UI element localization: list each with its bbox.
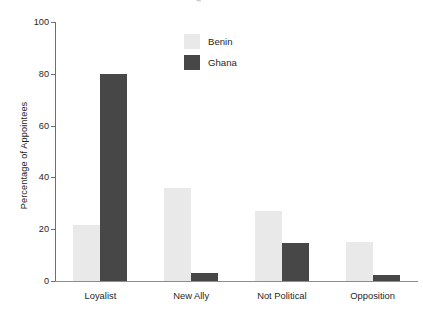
bar-benin-new-ally [164, 188, 191, 281]
y-tick-mark [51, 22, 55, 23]
y-tick-label: 20 [39, 224, 49, 234]
y-tick-label: 80 [39, 69, 49, 79]
y-tick-label: 100 [34, 17, 49, 27]
bar-ghana-not-political [282, 243, 309, 281]
y-tick-label: 60 [39, 121, 49, 131]
y-tick-mark [51, 74, 55, 75]
bar-benin-loyalist [73, 225, 100, 281]
y-tick-mark [51, 281, 55, 282]
cropped-title-artifact: g [196, 0, 230, 2]
legend-label-benin: Benin [208, 35, 233, 48]
x-tick-label-loyalist: Loyalist [84, 290, 116, 301]
bar-chart-figure: g Percentage of Appointees 020406080100 … [0, 0, 423, 311]
y-tick-mark [51, 126, 55, 127]
bar-ghana-opposition [373, 275, 400, 281]
x-tick-label-opposition: Opposition [350, 290, 395, 301]
x-axis-line [55, 281, 418, 282]
y-tick-mark [51, 177, 55, 178]
bar-ghana-new-ally [191, 273, 218, 281]
legend-label-ghana: Ghana [208, 56, 237, 69]
bar-benin-not-political [255, 211, 282, 281]
x-tick-label-not-political: Not Political [257, 290, 307, 301]
y-axis-label: Percentage of Appointees [16, 0, 32, 311]
legend-swatch-benin [184, 34, 200, 49]
legend-swatch-ghana [184, 55, 200, 70]
bar-benin-opposition [346, 242, 373, 281]
bar-ghana-loyalist [100, 74, 127, 281]
y-tick-label: 40 [39, 172, 49, 182]
y-tick-label: 0 [44, 276, 49, 286]
y-tick-mark [51, 229, 55, 230]
y-axis-line [55, 22, 56, 281]
x-tick-label-new-ally: New Ally [173, 290, 209, 301]
